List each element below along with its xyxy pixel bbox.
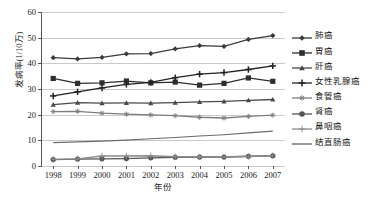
x-tick-label: 2000 xyxy=(94,170,111,180)
data-point-plus-thin xyxy=(172,154,178,160)
data-point-diamond xyxy=(51,55,56,60)
data-point-plus-thin xyxy=(270,153,276,159)
data-point-asterisk xyxy=(75,109,80,114)
data-point-plus-thin xyxy=(196,154,202,160)
data-point-diamond xyxy=(299,35,305,41)
legend-item-label: 食管癌 xyxy=(315,92,342,101)
data-point-plus-thin xyxy=(221,154,227,160)
x-tick-mark xyxy=(126,166,127,169)
data-point-plus-bold xyxy=(99,85,105,91)
data-point-asterisk xyxy=(173,113,178,118)
series-line xyxy=(53,66,273,96)
data-point-plus-bold xyxy=(221,69,227,75)
legend-item-6[interactable]: 鼻咽癌 xyxy=(292,119,368,134)
x-tick-label: 2002 xyxy=(142,170,159,180)
data-point-plus-thin xyxy=(74,156,80,162)
legend-item-label: 鼻咽癌 xyxy=(315,122,342,131)
data-point-square xyxy=(299,50,305,56)
data-point-plus-bold xyxy=(299,80,306,87)
x-tick-mark xyxy=(175,166,176,169)
legend-item-7[interactable]: 结直肠癌 xyxy=(292,134,368,149)
data-point-square xyxy=(75,81,80,86)
data-point-diamond xyxy=(246,37,251,42)
x-tick-label: 2003 xyxy=(167,170,184,180)
plot-area: 0102030405060 19981999200020012002200320… xyxy=(41,12,285,166)
x-tick-label: 2004 xyxy=(191,170,208,180)
legend-key-icon xyxy=(292,106,312,118)
series-line xyxy=(53,36,273,59)
legend-key-icon xyxy=(292,45,312,57)
data-point-asterisk xyxy=(197,115,202,120)
data-point-plus-bold xyxy=(245,66,251,72)
data-point-asterisk xyxy=(221,115,226,120)
y-tick-label: 50 xyxy=(28,33,37,43)
y-tick-label: 10 xyxy=(28,135,37,145)
data-point-plus-bold xyxy=(270,63,276,69)
data-point-plus-bold xyxy=(50,93,56,99)
x-tick-mark xyxy=(200,166,201,169)
series-0 xyxy=(51,33,276,62)
data-point-diamond xyxy=(221,44,226,49)
data-point-square xyxy=(221,81,226,86)
series-2 xyxy=(51,97,276,107)
series-line xyxy=(53,100,273,105)
x-tick-mark xyxy=(224,166,225,169)
x-tick-label: 1999 xyxy=(69,170,86,180)
legend-item-4[interactable]: 食管癌 xyxy=(292,89,368,104)
data-point-circle xyxy=(299,111,305,117)
legend-item-3[interactable]: 女性乳腺癌 xyxy=(292,74,368,89)
series-3 xyxy=(50,63,276,99)
x-tick-mark xyxy=(53,166,54,169)
data-point-asterisk xyxy=(299,96,305,102)
legend-item-label: 胃癌 xyxy=(315,47,333,56)
x-tick-mark xyxy=(102,166,103,169)
legend-item-label: 肾癌 xyxy=(315,107,333,116)
data-point-asterisk xyxy=(246,114,251,119)
series-layer xyxy=(41,12,285,166)
data-point-diamond xyxy=(99,55,104,60)
data-point-square xyxy=(197,83,202,88)
series-line xyxy=(53,131,273,143)
series-1 xyxy=(51,75,276,87)
legend-item-label: 女性乳腺癌 xyxy=(315,77,360,86)
data-point-asterisk xyxy=(148,112,153,117)
y-tick-label: 0 xyxy=(32,161,36,171)
data-point-diamond xyxy=(124,51,129,56)
data-point-asterisk xyxy=(270,113,275,118)
data-point-diamond xyxy=(75,56,80,61)
legend-key-icon xyxy=(292,121,312,133)
legend-item-label: 肺癌 xyxy=(315,31,333,40)
x-tick-label: 2005 xyxy=(216,170,233,180)
x-tick-label: 1998 xyxy=(45,170,62,180)
legend-key-icon xyxy=(292,90,312,102)
data-point-plus-bold xyxy=(74,89,80,95)
x-tick-label: 2007 xyxy=(264,170,281,180)
series-4 xyxy=(51,109,276,121)
data-point-plus-bold xyxy=(196,71,202,77)
legend-item-5[interactable]: 肾癌 xyxy=(292,104,368,119)
data-point-plus-thin xyxy=(50,156,56,162)
y-tick-label: 30 xyxy=(28,84,37,94)
legend-item-1[interactable]: 胃癌 xyxy=(292,43,368,58)
y-axis-title: 发病率(1/10万) xyxy=(12,0,24,120)
data-point-diamond xyxy=(270,33,275,38)
x-tick-label: 2001 xyxy=(118,170,135,180)
data-point-diamond xyxy=(148,51,153,56)
legend-key-icon xyxy=(292,75,312,87)
data-point-square xyxy=(99,80,104,85)
series-line xyxy=(53,111,273,118)
legend-item-label: 结直肠癌 xyxy=(315,138,351,147)
data-point-square xyxy=(246,75,251,80)
legend-item-2[interactable]: 肝癌 xyxy=(292,58,368,73)
legend-key-icon xyxy=(292,30,312,42)
data-point-plus-thin xyxy=(299,125,306,132)
legend-item-0[interactable]: 肺癌 xyxy=(292,28,368,43)
y-tick-mark xyxy=(38,166,42,167)
legend-item-label: 肝癌 xyxy=(315,62,333,71)
x-tick-mark xyxy=(273,166,274,169)
series-7 xyxy=(53,131,273,143)
y-tick-label: 60 xyxy=(28,7,37,17)
x-axis-title: 年份 xyxy=(41,180,285,192)
x-tick-label: 2006 xyxy=(240,170,257,180)
series-line xyxy=(53,78,273,85)
